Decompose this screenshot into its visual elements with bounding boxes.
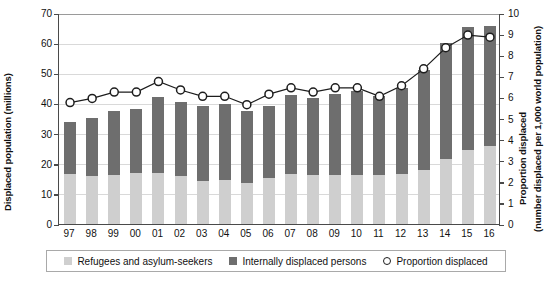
legend-item: Internally displaced persons: [229, 256, 366, 267]
y-axis-left-tickmark: [54, 44, 59, 45]
bar-segment-idp: [285, 95, 297, 174]
plot-area: [58, 14, 500, 225]
bar-segment-idp: [440, 43, 452, 158]
y-axis-right-tickmark: [499, 225, 504, 226]
y-axis-right-tickmark: [499, 98, 504, 99]
bar-segment-refugees: [285, 174, 297, 224]
bar-segment-refugees: [418, 170, 430, 224]
bar-segment-idp: [462, 27, 474, 149]
y-axis-left-tick-label: 20: [26, 159, 52, 170]
bar-segment-idp: [263, 106, 275, 178]
y-axis-right-tick-label: 3: [508, 156, 534, 167]
y-axis-right-tickmark: [499, 77, 504, 78]
y-axis-right-tick-label: 8: [508, 50, 534, 61]
legend-label: Refugees and asylum-seekers: [77, 256, 212, 267]
y-axis-right-tick-label: 9: [508, 29, 534, 40]
bar-segment-refugees: [329, 175, 341, 224]
y-axis-left-tickmark: [54, 74, 59, 75]
bar-segment-refugees: [108, 175, 120, 224]
y-axis-left-tick-label: 50: [26, 68, 52, 79]
bar-segment-idp: [418, 70, 430, 170]
y-axis-right-tick-label: 10: [508, 8, 534, 19]
bar-segment-refugees: [130, 173, 142, 224]
bar-segment-refugees: [64, 174, 76, 224]
y-axis-left-tick-label: 30: [26, 129, 52, 140]
bar-segment-refugees: [396, 174, 408, 224]
bar-segment-refugees: [175, 176, 187, 224]
bar-segment-idp: [241, 111, 253, 182]
bar-segment-idp: [152, 97, 164, 172]
bar-segment-idp: [86, 118, 98, 176]
y-axis-left-tickmark: [54, 134, 59, 135]
bar-segment-idp: [329, 94, 341, 175]
bar-segment-refugees: [440, 159, 452, 224]
y-axis-left-tickmark: [54, 14, 59, 15]
y-axis-right-tick-label: 6: [508, 92, 534, 103]
y-axis-left-tick-label: 70: [26, 8, 52, 19]
chart-legend: Refugees and asylum-seekersInternally di…: [46, 250, 506, 272]
bar-segment-idp: [373, 96, 385, 175]
y-axis-right-tick-label: 2: [508, 177, 534, 188]
x-axis-tick-label: 16: [476, 228, 502, 239]
bar-segment-refugees: [241, 183, 253, 224]
bar-segment-idp: [307, 98, 319, 176]
y-axis-right-tickmark: [499, 140, 504, 141]
y-axis-left-title: Displaced population (millions): [2, 73, 13, 211]
y-axis-left-tickmark: [54, 164, 59, 165]
y-axis-right-tickmark: [499, 14, 504, 15]
legend-square-light-icon: [64, 257, 72, 265]
bar-segment-refugees: [219, 180, 231, 224]
bar-segment-refugees: [263, 178, 275, 224]
y-axis-left-tickmark: [54, 104, 59, 105]
x-axis-labels: 9798990001020304050607080910111213141516: [58, 228, 500, 244]
bar-segment-refugees: [351, 175, 363, 224]
legend-label: Proportion displaced: [396, 256, 487, 267]
y-axis-right-tickmark: [499, 35, 504, 36]
legend-circle-icon: [383, 257, 391, 265]
legend-item: Proportion displaced: [383, 256, 487, 267]
legend-item: Refugees and asylum-seekers: [64, 256, 212, 267]
y-axis-right-tickmark: [499, 161, 504, 162]
y-axis-right-tickmark: [499, 119, 504, 120]
bar-series-layer: [59, 14, 499, 224]
bar-segment-refugees: [484, 146, 496, 224]
bar-segment-idp: [108, 111, 120, 175]
bar-segment-idp: [130, 109, 142, 174]
y-axis-right-tick-label: 0: [508, 219, 534, 230]
bar-segment-idp: [175, 102, 187, 177]
bar-segment-refugees: [462, 150, 474, 224]
legend-label: Internally displaced persons: [242, 256, 366, 267]
y-axis-left-tick-label: 0: [26, 219, 52, 230]
y-axis-left-tick-label: 10: [26, 189, 52, 200]
bar-segment-refugees: [373, 175, 385, 224]
bar-segment-refugees: [152, 173, 164, 224]
y-axis-right-tick-label: 4: [508, 135, 534, 146]
bar-segment-idp: [396, 88, 408, 174]
y-axis-right-tick-label: 5: [508, 114, 534, 125]
y-axis-right-tickmark: [499, 56, 504, 57]
y-axis-left-tickmark: [54, 225, 59, 226]
y-axis-left-tick-label: 60: [26, 38, 52, 49]
legend-square-dark-icon: [229, 257, 237, 265]
bar-segment-idp: [219, 104, 231, 180]
bar-segment-refugees: [197, 181, 209, 224]
y-axis-left-tickmark: [54, 194, 59, 195]
bar-segment-refugees: [86, 176, 98, 224]
y-axis-right-tick-label: 7: [508, 71, 534, 82]
bar-segment-refugees: [307, 175, 319, 224]
bar-segment-idp: [64, 122, 76, 174]
bar-segment-idp: [351, 91, 363, 174]
y-axis-right-tick-label: 1: [508, 198, 534, 209]
bar-segment-idp: [197, 106, 209, 181]
displaced-population-chart: Displaced population (millions) Proporti…: [0, 0, 555, 282]
y-axis-left-tick-label: 40: [26, 98, 52, 109]
y-axis-right-tickmark: [499, 203, 504, 204]
y-axis-right-tickmark: [499, 182, 504, 183]
bar-segment-idp: [484, 26, 496, 146]
